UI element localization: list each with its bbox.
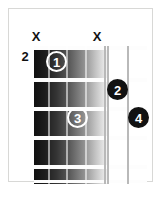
finger-marker-1: 1 xyxy=(46,51,67,72)
fret-line-nut xyxy=(34,46,147,50)
string-5 xyxy=(107,46,109,184)
fret-line-3 xyxy=(34,136,147,140)
fret-line-1 xyxy=(34,78,147,82)
finger-marker-2: 2 xyxy=(107,79,128,100)
mute-marker-string-4: X xyxy=(91,30,103,44)
mute-marker-string-1: X xyxy=(30,30,42,44)
string-5-overlap xyxy=(104,46,106,184)
fret-line-5 xyxy=(34,180,147,183)
finger-marker-4: 4 xyxy=(128,107,149,128)
finger-marker-3: 3 xyxy=(67,107,88,128)
diagram-frame: 2 X X 1 2 3 4 xyxy=(8,8,153,182)
fret-position-label: 2 xyxy=(18,49,32,65)
chord-diagram-page: 2 X X 1 2 3 4 xyxy=(0,0,163,198)
fret-line-4 xyxy=(34,165,147,169)
